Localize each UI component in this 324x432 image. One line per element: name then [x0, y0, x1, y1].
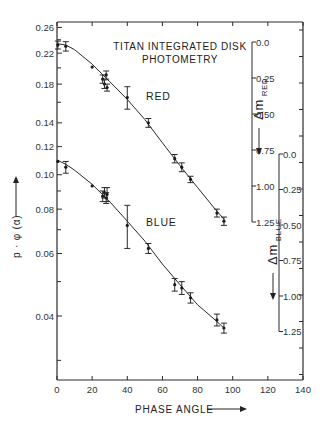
- axis-tick-label: 1.25: [256, 217, 275, 228]
- y-tick-label: 0.06: [36, 248, 55, 259]
- point-marker: [173, 157, 176, 160]
- x-tick-label: 120: [260, 384, 276, 395]
- secondary-magnitude-axes: 0.00.250.500.751.001.25Δm RED0.00.250.50…: [251, 37, 302, 338]
- point-marker: [126, 96, 129, 99]
- point-marker: [189, 178, 192, 181]
- axis-tick-label: 0.50: [283, 220, 302, 231]
- x-tick-label: 80: [192, 384, 203, 395]
- phase-curve-chart: 020406080100120140 0.040.060.080.100.120…: [0, 0, 324, 432]
- point-marker: [147, 247, 150, 250]
- x-tick-label: 20: [87, 384, 98, 395]
- axis-tick-label: 0.0: [256, 37, 269, 48]
- y-axis-title: p · φ (α): [11, 215, 22, 258]
- fit-curve-blue: [57, 160, 224, 328]
- point-marker: [64, 45, 67, 48]
- point-marker: [56, 160, 59, 163]
- point-marker: [180, 286, 183, 289]
- point-marker: [222, 326, 225, 329]
- y-tick-label: 0.22: [36, 48, 55, 59]
- x-tick-label: 100: [225, 384, 241, 395]
- data-point-red: [55, 41, 61, 49]
- point-marker: [222, 220, 225, 223]
- chart-title-line2: PHOTOMETRY: [142, 54, 218, 65]
- chart-title-line1: TITAN INTEGRATED DISK: [113, 41, 246, 52]
- y-tick-label: 0.12: [36, 141, 55, 152]
- point-marker: [91, 65, 94, 68]
- axis-tick-label: 1.00: [256, 181, 275, 192]
- series-label-red: RED: [146, 90, 171, 102]
- point-marker: [189, 296, 192, 299]
- axis-tick-label: 0.0: [283, 149, 296, 160]
- data-point-red: [91, 65, 94, 68]
- point-marker: [173, 283, 176, 286]
- series-label-blue: BLUE: [146, 216, 177, 228]
- y-tick-label: 0.14: [36, 117, 55, 128]
- data-point-blue: [221, 323, 227, 333]
- axis-tick-label: 0.75: [283, 255, 302, 266]
- x-tick-label: 60: [157, 384, 168, 395]
- point-marker: [101, 195, 104, 198]
- point-marker: [105, 86, 108, 89]
- y-axis-arrow-icon: [13, 176, 19, 216]
- y-tick-label: 0.26: [36, 22, 55, 33]
- axis-tick-label: 1.25: [283, 326, 302, 337]
- point-marker: [105, 73, 108, 76]
- fit-curve-red: [57, 44, 224, 219]
- y-tick-label: 0.18: [36, 79, 55, 90]
- data-point-blue: [104, 188, 110, 202]
- point-marker: [180, 166, 183, 169]
- data-point-red: [221, 217, 227, 225]
- y-tick-label: 0.08: [36, 204, 55, 215]
- x-axis-title: PHASE ANGLE: [135, 404, 214, 415]
- point-marker: [105, 193, 108, 196]
- point-marker: [91, 184, 94, 187]
- arrow-head-icon: [270, 293, 276, 300]
- x-tick-label: 40: [122, 384, 133, 395]
- point-marker: [56, 43, 59, 46]
- data-point-blue: [56, 160, 59, 163]
- dm-red-axis: 0.00.250.500.751.001.25Δm RED: [251, 37, 275, 228]
- dm-blue-axis: 0.00.250.500.751.001.25Δm BLUE: [265, 149, 302, 338]
- x-tick-label: 0: [54, 384, 59, 395]
- point-marker: [126, 224, 129, 227]
- point-marker: [215, 318, 218, 321]
- point-marker: [215, 211, 218, 214]
- fit-curves: [57, 44, 224, 328]
- y-tick-label: 0.04: [36, 311, 55, 322]
- data-point-blue: [179, 282, 185, 295]
- data-points: [55, 41, 227, 333]
- x-tick-label: 140: [295, 384, 311, 395]
- data-point-red: [145, 119, 151, 128]
- data-point-blue: [91, 184, 94, 187]
- point-marker: [64, 166, 67, 169]
- data-point-blue: [124, 205, 130, 248]
- y-tick-label: 0.10: [36, 169, 55, 180]
- axis-tick-label: 0.25: [283, 184, 302, 195]
- point-marker: [147, 121, 150, 124]
- axis-tick-label: 1.00: [283, 291, 302, 302]
